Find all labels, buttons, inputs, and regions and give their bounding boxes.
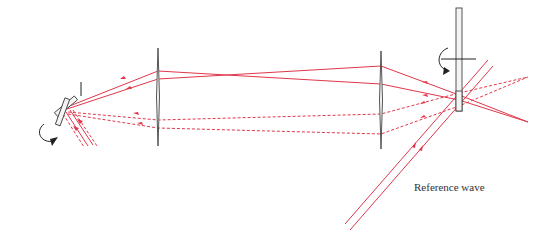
rotation-arrow-icon (39, 124, 58, 146)
lens-2 (380, 51, 383, 149)
reference-wave-label: Reference wave (414, 181, 485, 193)
reference-wave-beam (345, 60, 493, 230)
hologram-plate (441, 8, 476, 111)
optical-setup-diagram: Reference wave (0, 0, 552, 234)
lens-1 (157, 48, 160, 146)
plate-rotation-arrow-icon (439, 48, 450, 75)
